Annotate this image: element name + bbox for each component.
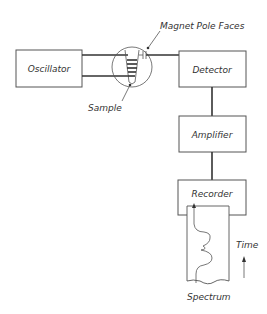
chart-paper xyxy=(187,203,229,284)
amplifier-label: Amplifier xyxy=(191,130,234,140)
diagram-canvas: Oscillator Magnet Pole Faces Sample Dete… xyxy=(0,0,267,314)
spectrum-label: Spectrum xyxy=(187,292,231,302)
magnet-leader-line xyxy=(148,31,160,48)
detector-block: Detector xyxy=(179,51,246,87)
sample-label: Sample xyxy=(88,103,122,113)
oscillator-block: Oscillator xyxy=(16,50,82,87)
oscillator-label: Oscillator xyxy=(28,64,72,74)
sample-leader-line xyxy=(122,85,130,101)
detector-label: Detector xyxy=(192,65,233,75)
time-label: Time xyxy=(236,240,259,250)
amplifier-block: Amplifier xyxy=(179,116,246,152)
magnet-leader-dot xyxy=(147,47,150,50)
recorder-label: Recorder xyxy=(192,189,234,199)
magnet-pole-faces-label: Magnet Pole Faces xyxy=(160,21,245,31)
sample-leader-dot xyxy=(129,84,132,87)
time-arrow-icon xyxy=(242,256,246,262)
